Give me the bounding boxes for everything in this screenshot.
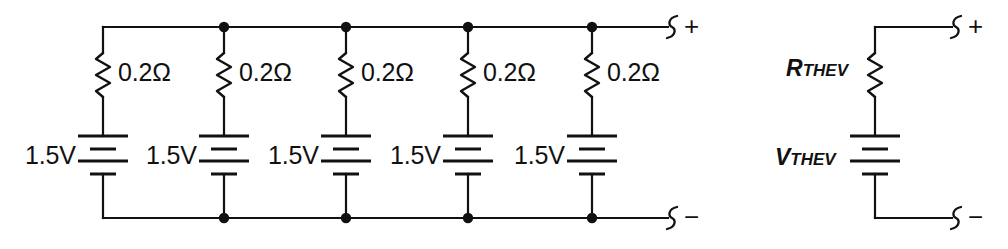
- resistor-5-label: 0.2Ω: [607, 60, 660, 85]
- resistor-2-label: 0.2Ω: [239, 60, 292, 85]
- resistor-4-label: 0.2Ω: [483, 60, 536, 85]
- junction-dot-top-5: [587, 22, 597, 32]
- resistor-4-zigzag: [461, 53, 475, 97]
- battery-4-label: 1.5V: [390, 143, 441, 168]
- battery-1-label: 1.5V: [25, 143, 76, 168]
- thevenin-resistor-label: RTHEV: [786, 57, 848, 80]
- junction-dot-bottom-5: [587, 213, 597, 223]
- resistor-2-zigzag: [217, 53, 231, 97]
- junction-dot-bottom-4: [463, 213, 473, 223]
- resistor-1-label: 0.2Ω: [118, 60, 171, 85]
- junction-dot-top-2: [219, 22, 229, 32]
- left-terminal-positive-label: +: [684, 13, 699, 39]
- circuit-diagram-canvas: 0.2Ω 0.2Ω 0.2Ω 0.2Ω 0.2Ω 1.5V 1.5V 1.5V …: [0, 0, 1008, 249]
- thevenin-resistor-zigzag: [868, 53, 882, 97]
- left-terminal-negative-label: −: [684, 204, 699, 230]
- junction-dot-bottom-3: [341, 213, 351, 223]
- branch-5: [567, 22, 617, 223]
- battery-3-label: 1.5V: [268, 143, 319, 168]
- battery-5-label: 1.5V: [514, 143, 565, 168]
- junction-dot-top-3: [341, 22, 351, 32]
- thevenin-source-label: VTHEV: [775, 146, 836, 169]
- resistor-3-label: 0.2Ω: [361, 60, 414, 85]
- thevenin-terminal-negative-label: −: [968, 204, 983, 230]
- branch-3: [321, 22, 371, 223]
- resistor-1-zigzag: [96, 53, 110, 97]
- thevenin-resistor-symbol: R: [786, 55, 803, 81]
- junction-dot-bottom-2: [219, 213, 229, 223]
- thevenin-circuit: [850, 27, 952, 218]
- thevenin-source-symbol: V: [775, 144, 790, 170]
- thevenin-terminal-positive-label: +: [968, 13, 983, 39]
- thevenin-resistor-subscript: THEV: [803, 61, 848, 80]
- resistor-3-zigzag: [339, 53, 353, 97]
- branch-1: [78, 27, 128, 218]
- thevenin-source-subscript: THEV: [790, 150, 835, 169]
- resistor-5-zigzag: [585, 53, 599, 97]
- battery-2-label: 1.5V: [146, 143, 197, 168]
- schematic-svg: [0, 0, 1008, 249]
- branch-2: [199, 22, 249, 223]
- junction-dot-top-4: [463, 22, 473, 32]
- branch-4: [443, 22, 493, 223]
